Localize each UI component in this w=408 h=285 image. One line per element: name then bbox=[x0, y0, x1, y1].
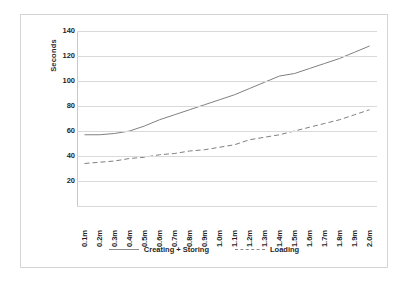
x-axis-line bbox=[77, 206, 377, 207]
gridline bbox=[77, 81, 377, 82]
legend-label: Loading bbox=[270, 245, 299, 254]
gridline bbox=[77, 131, 377, 132]
legend-swatch-dashed bbox=[235, 249, 265, 250]
legend-item[interactable]: Creating + Storing bbox=[109, 245, 209, 254]
chart-container: Seconds 20406080100120140 0.1m0.2m0.3m0.… bbox=[20, 14, 388, 268]
y-axis-tick-80: 80 bbox=[41, 102, 75, 110]
gridline bbox=[77, 181, 377, 182]
gridline bbox=[77, 106, 377, 107]
legend-swatch-solid bbox=[109, 249, 139, 250]
plot-area bbox=[77, 31, 377, 206]
gridline bbox=[77, 156, 377, 157]
y-axis-tick-20: 20 bbox=[41, 177, 75, 185]
gridline bbox=[77, 31, 377, 32]
series-line-creating-storing bbox=[85, 46, 370, 135]
gridline bbox=[77, 56, 377, 57]
x-axis-tick-2.0m: 2.0m bbox=[350, 227, 390, 245]
y-axis-tick-60: 60 bbox=[41, 127, 75, 135]
legend-label: Creating + Storing bbox=[144, 245, 209, 254]
y-axis-tick-40: 40 bbox=[41, 152, 75, 160]
legend-item[interactable]: Loading bbox=[235, 245, 299, 254]
y-axis-tick-120: 120 bbox=[41, 52, 75, 60]
series-lines bbox=[77, 31, 377, 206]
chart-legend: Creating + StoringLoading bbox=[21, 245, 387, 254]
y-axis-tick-100: 100 bbox=[41, 77, 75, 85]
y-axis-tick-140: 140 bbox=[41, 27, 75, 35]
